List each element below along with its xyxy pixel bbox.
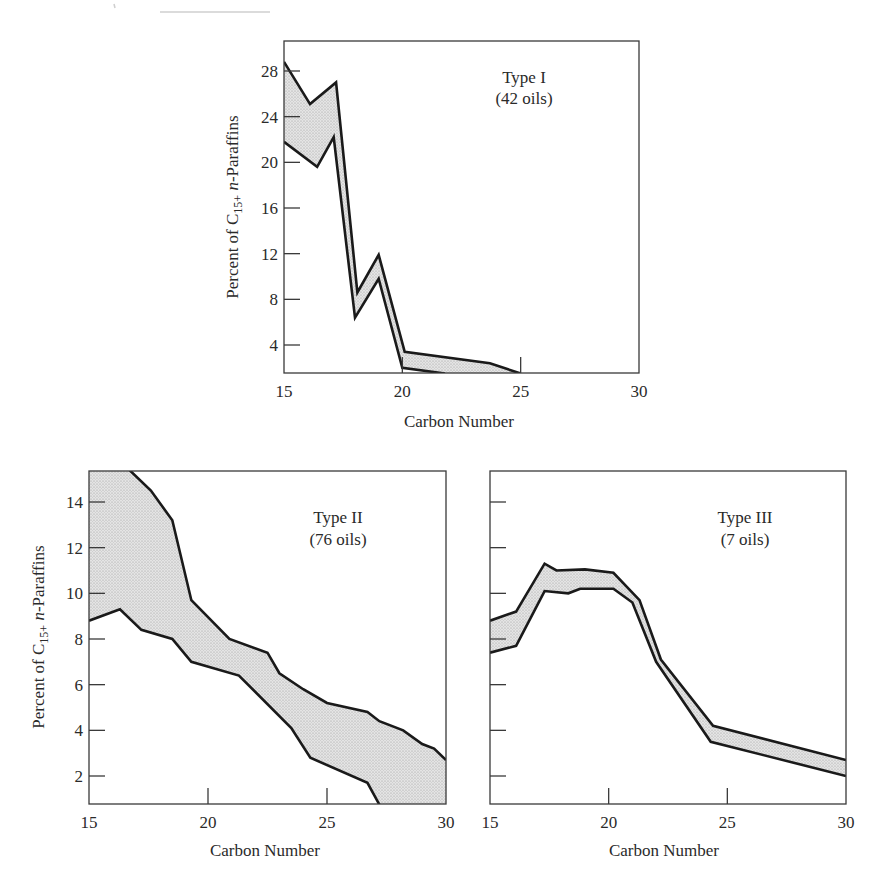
type-3-title: Type III xyxy=(718,508,773,527)
y-tick-label: 10 xyxy=(66,584,83,603)
y-tick-label: 14 xyxy=(66,493,84,512)
type-2-count: (76 oils) xyxy=(309,530,366,549)
y-tick-label: 2 xyxy=(75,767,84,786)
type-1-title: Type I xyxy=(502,68,546,87)
range-band-fill xyxy=(284,62,521,375)
type-3-xlabel: Carbon Number xyxy=(609,841,719,860)
x-tick-label: 15 xyxy=(81,813,98,832)
scan-artifact xyxy=(114,4,270,12)
range-band-fill xyxy=(89,470,446,806)
x-tick-label: 20 xyxy=(200,813,217,832)
type-1-ylabel: Percent of C15+ n-Paraffins xyxy=(223,115,245,298)
y-tick-label: 6 xyxy=(75,676,84,695)
x-tick-label: 25 xyxy=(512,382,529,401)
y-tick-label: 24 xyxy=(261,108,279,127)
type-1-range-band xyxy=(284,62,521,375)
y-tick-label: 8 xyxy=(75,630,84,649)
y-tick-label: 16 xyxy=(261,199,278,218)
x-tick-label: 30 xyxy=(838,813,855,832)
y-tick-label: 8 xyxy=(270,290,279,309)
type-2-xlabel: Carbon Number xyxy=(210,841,320,860)
type-3-count: (7 oils) xyxy=(721,530,770,549)
type-1-count: (42 oils) xyxy=(495,89,552,108)
y-tick-label: 4 xyxy=(75,721,84,740)
x-tick-label: 25 xyxy=(319,813,336,832)
chart-panel-type-2: 246810121415202530 Type II (76 oils) Car… xyxy=(29,470,455,860)
type-2-ylabel: Percent of C15+ n-Paraffins xyxy=(29,545,51,728)
y-tick-label: 20 xyxy=(261,153,278,172)
chart-panel-type-1: 48121620242815202530 Type I (42 oils) Ca… xyxy=(223,41,648,431)
x-tick-label: 20 xyxy=(600,813,617,832)
x-tick-label: 30 xyxy=(631,382,648,401)
x-tick-label: 15 xyxy=(482,813,499,832)
figure: 48121620242815202530 Type I (42 oils) Ca… xyxy=(0,0,882,892)
x-tick-label: 25 xyxy=(719,813,736,832)
x-tick-label: 15 xyxy=(276,382,293,401)
x-tick-label: 20 xyxy=(394,382,411,401)
type-2-title: Type II xyxy=(313,508,363,527)
y-tick-label: 12 xyxy=(66,539,83,558)
y-tick-label: 4 xyxy=(270,336,279,355)
y-tick-label: 28 xyxy=(261,62,278,81)
type-2-range-band xyxy=(89,470,446,806)
y-tick-label: 12 xyxy=(261,245,278,264)
lower-bound-line xyxy=(284,137,445,373)
x-tick-label: 30 xyxy=(438,813,455,832)
type-1-xlabel: Carbon Number xyxy=(404,412,514,431)
type-3-range-band xyxy=(490,564,846,776)
chart-panel-type-3: 15202530 Type III (7 oils) Carbon Number xyxy=(482,471,855,860)
